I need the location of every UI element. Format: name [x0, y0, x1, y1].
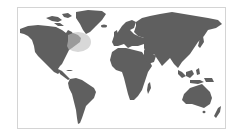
- region-madagascar: [147, 82, 151, 94]
- region-iceland: [101, 25, 107, 28]
- region-southeast-asia-islands: [178, 68, 214, 84]
- region-north-america[interactable]: [20, 25, 76, 74]
- region-greenland[interactable]: [76, 10, 106, 34]
- region-tasmania: [203, 111, 206, 113]
- region-south-america[interactable]: [68, 78, 96, 124]
- region-canadian-arctic: [46, 13, 72, 26]
- world-map[interactable]: [18, 8, 225, 128]
- region-caribbean: [66, 70, 73, 71]
- region-new-zealand[interactable]: [214, 106, 221, 118]
- region-australia[interactable]: [182, 84, 212, 108]
- world-map-frame: [17, 7, 226, 129]
